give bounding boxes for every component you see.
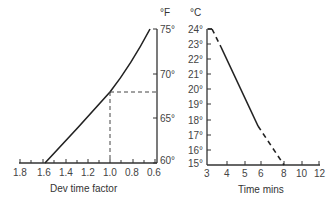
- left-y-tick-label: 70°: [160, 69, 175, 80]
- chart-canvas: °F 75° 70° 65° 60° 1.8 1.6: [0, 0, 334, 209]
- left-x-tick-label: 1.8: [13, 167, 27, 178]
- left-x-tick-label: 1.4: [59, 167, 73, 178]
- right-y-tick-label: 21°: [188, 69, 203, 80]
- left-y-tick-label: 65°: [160, 113, 175, 124]
- right-y-tick-label: 20°: [188, 84, 203, 95]
- right-y-tick-label: 18°: [188, 115, 203, 126]
- right-x-tick-label: 4: [224, 168, 230, 179]
- left-x-tick-label: 1.2: [81, 167, 95, 178]
- right-line-dashed-bottom: [258, 126, 284, 165]
- right-x-tick-label: 6: [258, 168, 264, 179]
- right-y-tick-label: 17°: [188, 130, 203, 141]
- left-chart: °F 75° 70° 65° 60° 1.8 1.6: [13, 7, 175, 194]
- right-x-tick-label: 3: [204, 168, 210, 179]
- left-x-tick-label: 1.6: [37, 167, 51, 178]
- right-y-tick-label: 24°: [188, 24, 203, 35]
- right-x-tick-label: 10: [296, 168, 308, 179]
- right-chart: °C 24° 23° 22° 21° 20° 19° 18° 17° 16° 1…: [188, 7, 326, 195]
- right-y-tick-label: 15°: [188, 158, 203, 169]
- right-line-dashed-top: [212, 29, 221, 47]
- right-y-tick-label: 19°: [188, 99, 203, 110]
- left-x-tick-label: 0.6: [147, 167, 161, 178]
- right-x-axis-title: Time mins: [238, 184, 284, 195]
- right-y-tick-label: 23°: [188, 39, 203, 50]
- left-x-axis-title: Dev time factor: [50, 183, 118, 194]
- right-x-tick-label: 12: [314, 168, 326, 179]
- left-y-tick-label: 75°: [160, 24, 175, 35]
- right-y-unit-label: °C: [190, 7, 201, 18]
- left-y-tick-label: 60°: [160, 155, 175, 166]
- right-y-tick-label: 22°: [188, 54, 203, 65]
- left-x-tick-label: 0.8: [125, 167, 139, 178]
- right-x-tick-label: 5: [242, 168, 248, 179]
- left-x-tick-label: 1.0: [103, 167, 117, 178]
- right-y-tick-label: 16°: [188, 145, 203, 156]
- left-curve: [45, 29, 150, 163]
- right-line-solid: [221, 47, 258, 126]
- left-y-unit-label: °F: [160, 7, 170, 18]
- right-x-tick-label: 8: [281, 168, 287, 179]
